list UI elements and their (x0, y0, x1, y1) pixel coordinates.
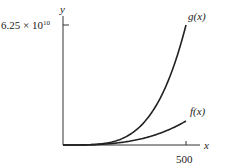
g-curve (63, 25, 186, 145)
y-tick-label: 6.25 × 1010 (1, 19, 50, 31)
f-curve-label: f(x) (190, 105, 206, 118)
x-tick-label: 500 (176, 153, 193, 165)
f-curve (63, 121, 186, 145)
x-axis-label: x (203, 139, 209, 151)
y-axis-label: y (59, 3, 65, 15)
g-curve-label: g(x) (188, 10, 206, 23)
chart: y x 6.25 × 1010 500 g(x) f(x) (0, 0, 225, 168)
